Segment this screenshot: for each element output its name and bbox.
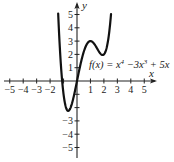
x-tick-label: 2: [101, 84, 106, 95]
x-tick-label: −3: [31, 84, 42, 95]
function-label-rhs: + 5x: [147, 59, 170, 70]
function-graph: −5−4−3−21234554321−3−4−5 x y f(x) = x4 −…: [0, 0, 174, 162]
y-axis-label: y: [81, 0, 87, 11]
y-tick-label: −5: [62, 142, 73, 153]
function-label-lhs: f(x) = x: [89, 59, 121, 71]
axes: [4, 2, 157, 158]
y-tick-label: 1: [68, 62, 73, 73]
x-tick-label: −5: [4, 84, 15, 95]
function-label: f(x) = x4 −3x3 + 5x: [89, 58, 170, 71]
y-tick-label: 5: [68, 9, 73, 20]
function-label-mid: −3x: [124, 59, 144, 70]
x-tick-label: 4: [128, 84, 133, 95]
y-tick-label: 4: [68, 22, 73, 33]
x-tick-label: 5: [142, 84, 147, 95]
x-tick-label: 1: [88, 84, 93, 95]
y-tick-label: −4: [62, 129, 73, 140]
x-tick-label: −2: [45, 84, 56, 95]
x-tick-label: 3: [115, 84, 120, 95]
x-tick-label: −4: [18, 84, 29, 95]
y-tick-label: 3: [68, 36, 73, 47]
y-tick-label: −3: [62, 115, 73, 126]
y-tick-label: 2: [68, 49, 73, 60]
